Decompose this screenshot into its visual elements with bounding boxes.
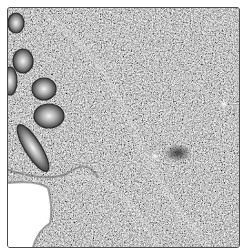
crypt xyxy=(8,67,17,95)
crypt xyxy=(13,49,33,73)
crypt xyxy=(8,13,24,33)
micrograph-frame xyxy=(7,7,240,248)
crypt xyxy=(32,78,56,100)
bright-spot xyxy=(220,100,228,108)
dark-cluster xyxy=(164,144,192,162)
tissue-micrograph xyxy=(8,8,239,247)
bright-spot xyxy=(151,152,159,160)
crypt xyxy=(34,104,64,128)
